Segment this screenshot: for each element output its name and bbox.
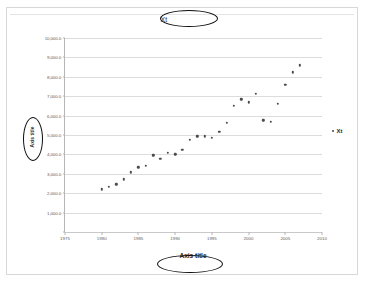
x-axis-tick-label: 1985	[134, 236, 144, 241]
y-axis-tick-mark	[63, 212, 65, 213]
x-axis-tick-label: 2010	[317, 236, 327, 241]
data-point[interactable]	[247, 101, 249, 103]
data-point[interactable]	[145, 164, 147, 166]
chart-legend[interactable]: Xt	[332, 128, 342, 134]
gridline	[65, 57, 322, 58]
x-axis-tick-mark	[211, 232, 212, 235]
legend-label: Xt	[336, 128, 342, 134]
gridline	[65, 135, 322, 136]
x-axis-tick-label: 2005	[280, 236, 290, 241]
y-axis-tick-mark	[63, 154, 65, 155]
data-point[interactable]	[225, 122, 227, 124]
data-point[interactable]	[108, 186, 110, 188]
gridline	[65, 38, 322, 39]
y-axis-tick-mark	[63, 57, 65, 58]
x-axis-tick-mark	[322, 232, 323, 235]
data-point[interactable]	[181, 149, 183, 151]
y-axis-tick-label: 10,000.0	[45, 36, 61, 41]
y-axis-tick-mark	[63, 193, 65, 194]
data-point[interactable]	[218, 131, 220, 133]
x-axis-title: Axis title	[64, 252, 322, 259]
data-point[interactable]	[240, 98, 242, 100]
data-point[interactable]	[291, 71, 293, 73]
y-axis-tick-label: 6,000.0	[47, 113, 61, 118]
chart-title: Xt	[14, 16, 314, 23]
data-point[interactable]	[233, 105, 235, 107]
gridline	[65, 77, 322, 78]
y-axis-tick-label: 9,000.0	[47, 55, 61, 60]
data-point[interactable]	[101, 188, 103, 190]
x-axis-tick-label: 1980	[97, 236, 107, 241]
chart-object[interactable]: Xt 1,000.02,000.03,000.04,000.05,000.06,…	[14, 16, 350, 268]
data-point[interactable]	[211, 136, 213, 138]
data-point[interactable]	[159, 158, 161, 160]
y-axis-tick-label: 4,000.0	[47, 152, 61, 157]
x-axis-tick-mark	[65, 232, 66, 235]
y-axis-tick-mark	[63, 76, 65, 77]
x-axis-tick-label: 1990	[170, 236, 180, 241]
y-axis-tick-label: 1,000.0	[47, 210, 61, 215]
data-point[interactable]	[115, 183, 117, 185]
gridline	[65, 174, 322, 175]
plot-area: 1,000.02,000.03,000.04,000.05,000.06,000…	[64, 38, 322, 232]
x-axis-tick-label: 2000	[244, 236, 254, 241]
gridline	[65, 96, 322, 97]
data-point[interactable]	[137, 166, 139, 168]
data-point[interactable]	[123, 178, 125, 180]
gridline	[65, 232, 322, 233]
y-axis-tick-mark	[63, 38, 65, 39]
x-axis-tick-mark	[248, 232, 249, 235]
y-axis-tick-label: 3,000.0	[47, 171, 61, 176]
gridline	[65, 213, 322, 214]
data-point[interactable]	[262, 119, 264, 121]
data-point[interactable]	[277, 103, 279, 105]
data-point[interactable]	[255, 92, 257, 94]
x-axis-tick-mark	[175, 232, 176, 235]
x-axis-tick-mark	[101, 232, 102, 235]
y-axis-tick-mark	[63, 135, 65, 136]
x-axis-tick-label: 1995	[207, 236, 217, 241]
data-point[interactable]	[189, 138, 191, 140]
legend-marker-icon	[332, 130, 334, 132]
document-inner-rule	[10, 14, 354, 15]
data-point[interactable]	[299, 64, 301, 66]
y-axis-tick-label: 7,000.0	[47, 94, 61, 99]
data-point[interactable]	[269, 121, 271, 123]
y-axis-tick-label: 8,000.0	[47, 74, 61, 79]
page-canvas: Xt 1,000.02,000.03,000.04,000.05,000.06,…	[0, 0, 372, 283]
y-axis-title: Axis title	[29, 127, 35, 148]
gridline	[65, 116, 322, 117]
x-axis-tick-mark	[138, 232, 139, 235]
y-axis-tick-mark	[63, 96, 65, 97]
x-axis-tick-label: 1975	[60, 236, 70, 241]
y-axis-tick-mark	[63, 115, 65, 116]
gridline	[65, 193, 322, 194]
x-axis-tick-mark	[285, 232, 286, 235]
y-axis-tick-mark	[63, 173, 65, 174]
data-point[interactable]	[284, 84, 286, 86]
y-axis-tick-label: 2,000.0	[47, 191, 61, 196]
gridline	[65, 154, 322, 155]
y-axis-tick-label: 5,000.0	[47, 133, 61, 138]
